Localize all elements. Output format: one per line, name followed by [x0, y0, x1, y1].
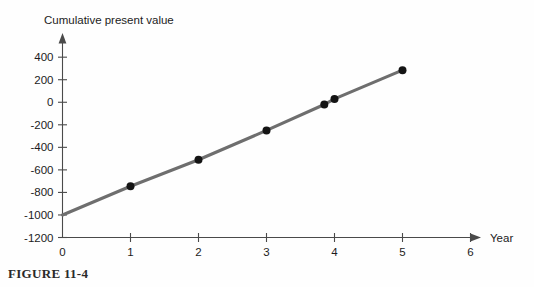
y-tick-label: -400: [30, 141, 53, 153]
data-point: [399, 66, 407, 74]
series-line: [63, 70, 403, 215]
y-tick-label: -800: [30, 186, 53, 198]
data-point: [331, 95, 339, 103]
y-tick-label: 0: [47, 96, 53, 108]
cumulative-present-value-chart: Cumulative present value Year -1200-1000…: [0, 0, 534, 287]
y-axis: [59, 33, 67, 238]
y-axis-arrow-icon: [59, 33, 67, 44]
x-axis-arrow-icon: [471, 234, 482, 242]
y-tick-label: -1200: [24, 232, 53, 244]
data-point: [320, 101, 328, 109]
x-tick-label: 6: [467, 246, 473, 258]
y-tick-label: -1000: [24, 209, 53, 221]
x-tick-label: 5: [399, 246, 405, 258]
y-tick-label: 400: [34, 51, 53, 63]
x-tick-label: 3: [263, 246, 269, 258]
y-tick-label: -200: [30, 119, 53, 131]
chart-x-axis-title: Year: [490, 232, 513, 244]
x-tick-label: 0: [59, 246, 65, 258]
data-point: [195, 156, 203, 164]
x-axis: [63, 234, 482, 242]
y-tick-label: 200: [34, 74, 53, 86]
data-point: [127, 182, 135, 190]
data-point: [263, 126, 271, 134]
x-tick-label: 1: [127, 246, 133, 258]
data-series-group: [63, 66, 407, 215]
chart-y-axis-title: Cumulative present value: [44, 14, 174, 26]
figure-caption: FIGURE 11-4: [8, 266, 88, 282]
x-tick-label: 2: [195, 246, 201, 258]
x-tick-group: 0123456: [59, 233, 473, 258]
figure-container: Cumulative present value Year -1200-1000…: [0, 0, 534, 287]
y-tick-label: -600: [30, 164, 53, 176]
y-tick-group: -1200-1000-800-600-400-2000200400: [24, 51, 67, 243]
x-tick-label: 4: [331, 246, 338, 258]
